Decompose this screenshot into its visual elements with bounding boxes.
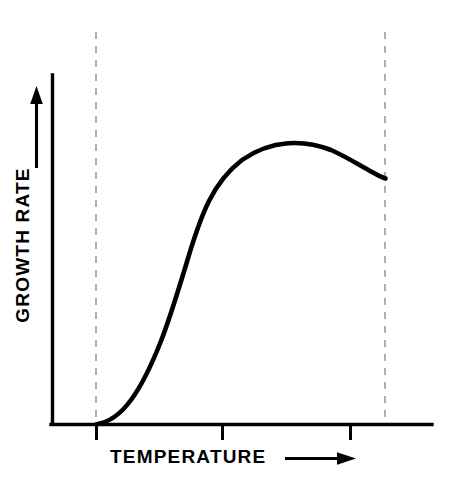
chart-plot-area (0, 0, 458, 493)
x-axis-direction-arrow-icon (285, 452, 356, 465)
y-axis-title: GROWTH RATE (0, 95, 46, 395)
y-axis-title-text: GROWTH RATE (12, 167, 34, 322)
x-axis-title-text: TEMPERATURE (110, 446, 266, 468)
growth-rate-curve (97, 143, 386, 424)
growth-rate-vs-temperature-figure: GROWTH RATE TEMPERATURE (0, 0, 458, 493)
